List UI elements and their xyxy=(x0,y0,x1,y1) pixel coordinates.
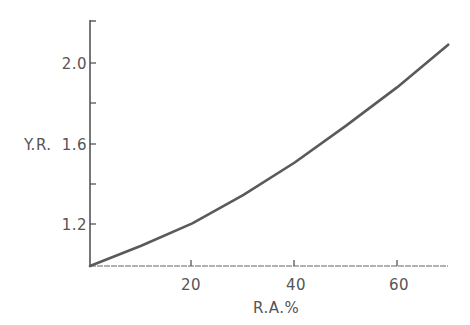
y-tick-label-1.6: 1.6 xyxy=(62,136,87,154)
y-axis-label: Y.R. xyxy=(23,136,52,154)
y-tick-label-1.2: 1.2 xyxy=(62,216,87,234)
x-tick-label-60: 60 xyxy=(389,276,409,294)
data-curve xyxy=(90,45,448,266)
x-tick-label-40: 40 xyxy=(286,276,306,294)
y-ticks xyxy=(90,63,96,224)
x-tick-label-20: 20 xyxy=(181,276,201,294)
y-tick-label-2.0: 2.0 xyxy=(62,55,87,73)
chart: 2.0 1.6 1.2 Y.R. 20 40 60 R.A.% xyxy=(0,0,470,325)
x-ticks xyxy=(191,260,397,266)
x-axis-label: R.A.% xyxy=(253,299,299,317)
